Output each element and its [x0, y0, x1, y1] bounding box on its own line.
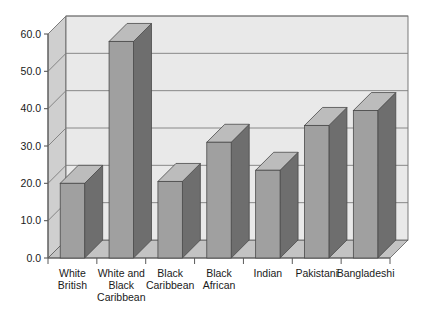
bar-front-face [109, 41, 133, 258]
bar-front-face [60, 183, 84, 258]
bar-black-caribbean [158, 163, 200, 258]
ytick-label-20.0: 20.0 [21, 177, 42, 189]
bar-bangladeshi [353, 93, 395, 258]
bar-front-face [305, 125, 329, 258]
bar-pakistani [305, 107, 347, 258]
xtick-label-black-african: BlackAfrican [203, 267, 236, 291]
ytick-label-10.0: 10.0 [21, 214, 42, 226]
xtick-label-indian: Indian [254, 267, 283, 279]
bar-front-face [256, 170, 280, 258]
bar-black-african [207, 124, 249, 258]
xtick-label-bangladeshi: Bangladeshi [337, 267, 395, 279]
ytick-label-60.0: 60.0 [21, 28, 42, 40]
bar-indian [256, 152, 298, 258]
bar-side-face [231, 124, 249, 258]
bar-side-face [378, 93, 396, 258]
ytick-label-30.0: 30.0 [21, 140, 42, 152]
bar-white-and-black-caribbean [109, 23, 151, 258]
xtick-label-white-and-black-caribbean: White andBlackCaribbean [97, 267, 146, 303]
xtick-label-white-british: WhiteBritish [58, 267, 87, 291]
bar-chart: 0.010.020.030.040.050.060.0WhiteBritishW… [0, 0, 422, 318]
chart-canvas: 0.010.020.030.040.050.060.0WhiteBritishW… [0, 0, 422, 318]
bar-front-face [207, 142, 231, 258]
xtick-label-black-caribbean: BlackCaribbean [146, 267, 195, 291]
ytick-label-0.0: 0.0 [26, 252, 41, 264]
bar-front-face [353, 111, 377, 258]
bar-front-face [158, 181, 182, 258]
bar-white-british [60, 165, 102, 258]
ytick-label-50.0: 50.0 [21, 65, 42, 77]
xtick-label-pakistani: Pakistani [295, 267, 338, 279]
bar-side-face [329, 107, 347, 258]
bar-side-face [134, 23, 152, 258]
ytick-label-40.0: 40.0 [21, 102, 42, 114]
